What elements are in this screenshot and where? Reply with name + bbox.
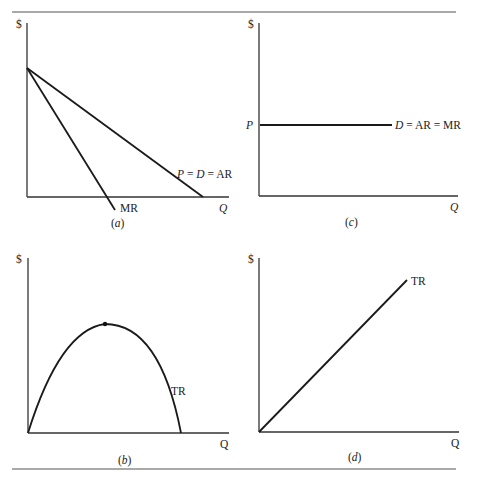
revenue-curves-figure: $ P = D = AR MR Q (a) $ P D = AR = MR Q … [0,0,477,483]
panel-caption: (c) [345,216,358,229]
tr-parabola [28,324,181,433]
panel-caption: (a) [111,217,125,230]
mr-curve-label: MR [120,202,138,214]
tr-max-point [103,322,107,326]
panel-a: $ P = D = AR MR Q (a) [16,18,232,230]
mr-curve [27,68,115,210]
horizontal-demand-label: D = AR = MR [394,119,461,131]
demand-curve-label: P = D = AR [176,168,232,180]
panel-caption: (b) [118,454,132,467]
panel-b: $ TR Q (b) [16,253,229,467]
panel-caption: (d) [348,451,362,464]
x-axis-label: Q [451,437,460,449]
tr-label: TR [411,275,426,287]
tr-label: TR [171,385,186,397]
y-axis-label: $ [248,253,254,265]
y-axis-label: $ [16,253,22,265]
x-axis-label: Q [450,201,459,213]
price-tick-label: P [245,119,253,131]
x-axis-label: Q [220,438,229,450]
panel-c: $ P D = AR = MR Q (c) [245,18,461,229]
y-axis-label: $ [248,18,254,30]
panel-d: $ TR Q (d) [248,253,460,464]
x-axis-label: Q [219,202,228,214]
y-axis-label: $ [16,18,22,30]
tr-line [259,280,407,432]
